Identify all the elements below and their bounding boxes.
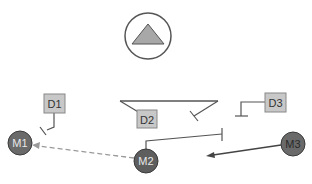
node-d1[interactable]: D1	[44, 94, 65, 113]
top-symbol	[125, 13, 171, 59]
d3-connector	[235, 102, 265, 116]
node-m3[interactable]: M3	[281, 132, 305, 156]
arrowhead-icon	[206, 152, 215, 158]
m2-connector	[146, 128, 222, 150]
node-label: M1	[12, 137, 27, 149]
node-label: M3	[285, 138, 300, 150]
diagram-canvas: D1 D2 D3 M1 M2 M3	[0, 0, 312, 184]
node-label: D2	[140, 114, 154, 126]
node-m1[interactable]: M1	[8, 131, 32, 155]
inhibit-bar	[40, 127, 46, 135]
node-d2[interactable]: D2	[137, 110, 157, 128]
solid-arrow-m3-m2	[206, 145, 281, 158]
node-m2[interactable]: M2	[134, 149, 158, 173]
node-label: D3	[268, 97, 282, 109]
dashed-arrow-m2-m1	[32, 142, 134, 158]
arrowhead-icon	[32, 142, 40, 149]
node-label: M2	[138, 155, 153, 167]
d1-connector	[40, 113, 54, 135]
node-label: D1	[47, 98, 61, 110]
d2-tray	[120, 101, 218, 121]
inhibit-bar	[190, 111, 198, 121]
node-d3[interactable]: D3	[265, 93, 286, 112]
